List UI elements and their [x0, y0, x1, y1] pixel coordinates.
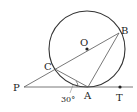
angle-label: 30° [61, 95, 75, 104]
angle-pointer [70, 85, 73, 93]
label-b: B [121, 25, 128, 36]
chord-ca [55, 69, 88, 87]
label-c: C [44, 61, 52, 72]
point-t [118, 85, 121, 88]
chord-ab [88, 33, 119, 87]
label-o: O [80, 37, 88, 48]
geometry-diagram: O B C P A T 30° [0, 0, 137, 112]
label-t: T [116, 92, 123, 103]
label-a: A [83, 90, 92, 101]
label-p: P [13, 82, 20, 93]
secant-line-pb [24, 33, 119, 87]
